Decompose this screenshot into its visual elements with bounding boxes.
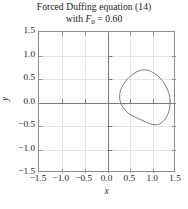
y-tick-label: 1.0 — [1, 50, 35, 59]
y-tick-label: 0.5 — [1, 73, 35, 82]
y-tick-label: −1.0 — [1, 144, 35, 153]
subtitle-prefix: with — [66, 13, 86, 24]
chart-figure: Forced Duffing equation (14) with F0 = 0… — [0, 0, 188, 209]
chart-title-block: Forced Duffing equation (14) with F0 = 0… — [0, 1, 188, 28]
plot-canvas — [39, 32, 176, 173]
tick-marks — [39, 32, 176, 173]
y-tick-label: 1.5 — [1, 26, 35, 35]
plot-area — [38, 31, 175, 172]
zero-axis-lines — [39, 32, 176, 173]
x-axis-title: x — [38, 186, 175, 196]
subtitle-equals: = 0.60 — [95, 13, 122, 24]
series-path-0 — [120, 70, 170, 125]
y-axis-title: y — [0, 89, 10, 109]
y-tick-label: −0.5 — [1, 120, 35, 129]
x-tick-label: 1.5 — [160, 174, 188, 183]
gridlines — [39, 32, 176, 173]
x-axis-tick-labels: −1.5−1.0−0.50.00.51.01.5 — [38, 174, 175, 186]
data-series-group — [120, 70, 170, 125]
chart-title: Forced Duffing equation (14) — [0, 1, 188, 13]
